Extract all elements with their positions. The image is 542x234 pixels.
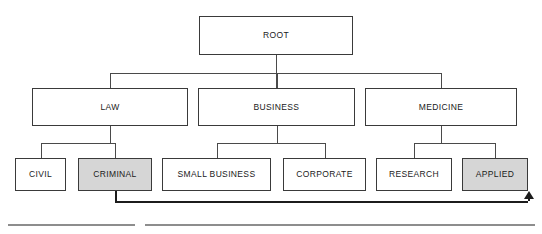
tree-diagram-canvas: ROOT LAW BUSINESS MEDICINE CIVIL CRIMINA…	[0, 0, 542, 234]
tree-node-corporate-label: CORPORATE	[296, 170, 352, 179]
edge-drop-applied	[495, 143, 496, 158]
tree-node-corporate[interactable]: CORPORATE	[283, 158, 366, 191]
footer-rule-left	[8, 224, 135, 226]
edge-medicine-bus	[414, 143, 495, 144]
edge-business-stem	[277, 126, 278, 143]
edge-drop-medicine	[441, 73, 442, 88]
footer-rule-right	[145, 224, 535, 226]
cross-link-segment-across	[115, 201, 528, 203]
edge-drop-research	[414, 143, 415, 158]
edge-law-stem	[110, 126, 111, 143]
edge-drop-business	[277, 73, 278, 88]
edge-medicine-stem	[441, 126, 442, 143]
tree-node-small-business-label: SMALL BUSINESS	[178, 170, 256, 179]
tree-node-small-business[interactable]: SMALL BUSINESS	[162, 158, 271, 191]
tree-node-civil-label: CIVIL	[29, 170, 52, 179]
tree-node-research-label: RESEARCH	[389, 170, 439, 179]
edge-drop-criminal	[115, 143, 116, 158]
tree-node-medicine[interactable]: MEDICINE	[365, 88, 517, 126]
edge-drop-law	[110, 73, 111, 88]
tree-node-law-label: LAW	[100, 103, 119, 112]
tree-node-applied[interactable]: APPLIED	[462, 158, 528, 191]
tree-node-law[interactable]: LAW	[32, 88, 188, 126]
cross-link-arrowhead-icon	[524, 191, 534, 199]
tree-node-applied-label: APPLIED	[476, 170, 514, 179]
tree-node-medicine-label: MEDICINE	[419, 103, 463, 112]
edge-drop-corporate	[325, 143, 326, 158]
tree-node-criminal-label: CRIMINAL	[93, 170, 136, 179]
tree-node-root-label: ROOT	[263, 31, 289, 40]
edge-drop-small-business	[217, 143, 218, 158]
edge-law-bus	[41, 143, 116, 144]
edge-root-bus	[110, 73, 441, 74]
edge-business-bus	[217, 143, 325, 144]
tree-node-root[interactable]: ROOT	[199, 16, 353, 55]
edge-drop-civil	[41, 143, 42, 158]
tree-node-research[interactable]: RESEARCH	[376, 158, 452, 191]
tree-node-civil[interactable]: CIVIL	[15, 158, 66, 191]
tree-node-criminal[interactable]: CRIMINAL	[78, 158, 152, 191]
tree-node-business-label: BUSINESS	[254, 103, 300, 112]
tree-node-business[interactable]: BUSINESS	[198, 88, 355, 126]
